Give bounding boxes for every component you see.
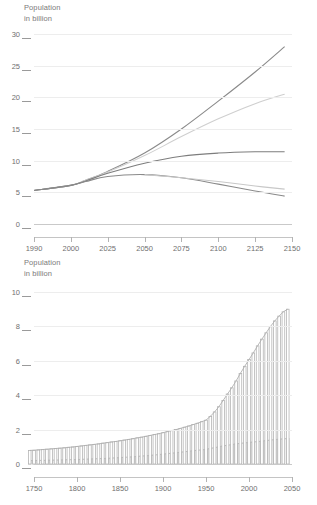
- top-chart-figure: Population in billion 051015202530199020…: [0, 0, 317, 252]
- gridline: [34, 326, 292, 327]
- bar-world-population: [209, 416, 212, 464]
- bar-world-population: [132, 439, 135, 464]
- baseline: [34, 464, 292, 465]
- y-axis-label: 20: [0, 93, 20, 102]
- x-axis-tick: [71, 237, 72, 242]
- x-axis-tick: [181, 237, 182, 242]
- bar-world-population: [179, 428, 182, 464]
- bar-world-population: [153, 435, 156, 464]
- x-axis-tick: [77, 477, 78, 482]
- bar-world-population: [110, 442, 113, 464]
- bar-world-population: [222, 400, 225, 464]
- y-axis-tick: [22, 38, 31, 39]
- top-chart-plot-area: 0510152025301990200020252050207521002125…: [34, 34, 292, 224]
- bar-world-population: [140, 437, 143, 464]
- series-line-constant-fertility-low: [145, 175, 285, 190]
- y-axis-tick: [22, 196, 31, 197]
- y-axis-tick: [22, 330, 31, 331]
- bar-world-population: [136, 438, 139, 464]
- bottom-chart-bars: [34, 292, 292, 464]
- y-axis-label: 2: [0, 425, 20, 434]
- gridline: [34, 292, 292, 293]
- series-line-high-variant: [34, 47, 285, 191]
- y-axis-tick: [22, 70, 31, 71]
- gridline: [34, 361, 292, 362]
- y-axis-label: 30: [0, 30, 20, 39]
- x-axis-tick: [108, 237, 109, 242]
- bar-world-population: [282, 312, 285, 464]
- bar-world-population: [123, 440, 126, 464]
- x-axis-tick: [249, 477, 250, 482]
- y-axis-tick: [22, 434, 31, 435]
- y-axis-tick: [22, 399, 31, 400]
- bar-world-population: [144, 436, 147, 464]
- bar-world-population: [200, 422, 203, 464]
- bar-world-population: [119, 441, 122, 464]
- y-axis-label: 8: [0, 322, 20, 331]
- x-axis-tick: [34, 477, 35, 482]
- bar-world-population: [58, 448, 61, 464]
- bar-world-population: [67, 447, 70, 464]
- x-axis-tick: [206, 477, 207, 482]
- bottom-chart-axis-title: Population in billion: [24, 258, 60, 279]
- x-axis-label: 1750: [26, 484, 43, 493]
- gridline: [34, 395, 292, 396]
- bar-world-population: [218, 407, 221, 464]
- y-axis-label: 15: [0, 125, 20, 134]
- bar-world-population: [205, 420, 208, 464]
- bar-world-population: [170, 431, 173, 464]
- bar-world-population: [149, 435, 152, 464]
- bar-world-population: [46, 449, 49, 464]
- top-chart-axis-title: Population in billion: [24, 3, 60, 24]
- bar-world-population: [183, 427, 186, 464]
- bar-world-population: [28, 450, 31, 464]
- y-axis-tick: [22, 296, 31, 297]
- bar-world-population: [50, 449, 53, 464]
- bar-world-population: [106, 443, 109, 464]
- bar-world-population: [265, 333, 268, 464]
- y-axis-label: 0: [0, 460, 20, 469]
- bar-world-population: [76, 446, 79, 464]
- y-axis-tick: [22, 133, 31, 134]
- bar-world-population: [97, 444, 100, 464]
- gridline: [34, 161, 292, 162]
- bar-world-population: [256, 346, 259, 464]
- x-axis-label: 2000: [241, 484, 258, 493]
- y-axis-label: 6: [0, 356, 20, 365]
- x-axis-tick: [292, 237, 293, 242]
- y-axis-label: 4: [0, 391, 20, 400]
- x-axis-tick: [255, 237, 256, 242]
- bar-world-population: [273, 321, 276, 464]
- gridline: [34, 192, 292, 193]
- bottom-chart-plot-area: 02468101750180018501900195020002050: [34, 292, 292, 464]
- x-axis-tick: [145, 237, 146, 242]
- x-axis-tick: [218, 237, 219, 242]
- x-axis-label: 2050: [284, 484, 301, 493]
- x-axis-label: 1850: [112, 484, 129, 493]
- bar-world-population: [71, 447, 74, 464]
- y-axis-label: 25: [0, 61, 20, 70]
- gridline: [34, 129, 292, 130]
- bar-world-population: [127, 439, 130, 464]
- bar-world-population: [286, 309, 289, 464]
- bar-world-population: [239, 373, 242, 464]
- y-axis-label: 5: [0, 188, 20, 197]
- bottom-chart-figure: Population in billion 024681017501800185…: [0, 252, 317, 505]
- y-axis-label: 10: [0, 288, 20, 297]
- baseline: [34, 224, 292, 225]
- bar-world-population: [101, 443, 104, 464]
- gridline: [34, 97, 292, 98]
- bar-world-population: [37, 450, 40, 464]
- x-axis-tick: [163, 477, 164, 482]
- x-axis-label: 1900: [155, 484, 172, 493]
- y-axis-tick: [22, 468, 31, 469]
- bar-world-population: [213, 412, 216, 464]
- bar-world-population: [63, 448, 66, 464]
- x-axis-label: 1800: [69, 484, 86, 493]
- bottom-title-line1: Population: [24, 258, 60, 267]
- bar-world-population: [93, 444, 96, 464]
- bar-world-population: [261, 339, 264, 464]
- bar-world-population: [84, 445, 87, 464]
- bottom-title-line2: in billion: [24, 269, 52, 278]
- x-axis-label: 1950: [198, 484, 215, 493]
